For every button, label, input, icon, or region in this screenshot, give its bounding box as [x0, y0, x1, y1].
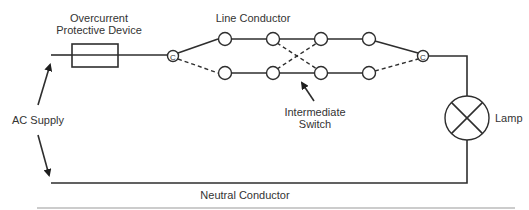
lamp-icon: [445, 96, 489, 140]
intermediate-switch-label-line2: Switch: [299, 118, 331, 130]
terminal-c-left-label: C: [170, 53, 176, 62]
intermediate-switch-arrow: [302, 83, 314, 101]
switch-left-lower-contact: [178, 59, 218, 73]
ocpd-label-line1: Overcurrent: [70, 12, 128, 24]
contact-node-icon: [219, 33, 232, 46]
switch-right-upper-contact: [375, 41, 418, 53]
intermediate-switch-label-line1: Intermediate: [284, 106, 345, 118]
switch-wire: [429, 56, 468, 96]
neutral-conductor-label: Neutral Conductor: [200, 189, 290, 201]
switch-right-lower-contact: [375, 59, 418, 71]
contact-node-icon: [267, 67, 280, 80]
ocpd-label-line2: Protective Device: [56, 24, 142, 36]
fuse-icon: [72, 44, 118, 67]
contact-node-icon: [315, 33, 328, 46]
contact-node-icon: [219, 67, 232, 80]
contact-node-icon: [267, 33, 280, 46]
switch-left-upper-contact: [178, 39, 218, 53]
lamp-label: Lamp: [495, 112, 523, 124]
terminal-c-right-label: C: [420, 53, 426, 62]
contact-node-icon: [363, 67, 376, 80]
terminal-c-left-icon: C: [168, 51, 179, 62]
ac-supply-label: AC Supply: [12, 114, 64, 126]
ac-supply-arrow-down: [38, 135, 49, 175]
contact-node-icon: [315, 67, 328, 80]
ac-supply-arrow-up: [38, 65, 50, 105]
line-conductor-label: Line Conductor: [216, 12, 291, 24]
contact-node-icon: [363, 33, 376, 46]
circuit-diagram: C C Overcurrent Protective Devi: [0, 0, 529, 210]
terminal-c-right-icon: C: [418, 51, 429, 62]
neutral-wire: [51, 140, 467, 183]
